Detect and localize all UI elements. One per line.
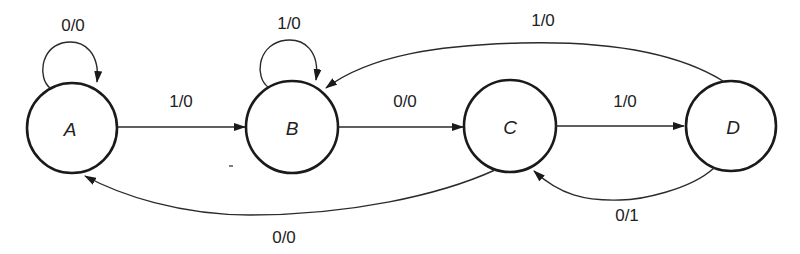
transition-c-d: 1/0	[556, 92, 684, 126]
transition-c-a: 0/0	[85, 170, 495, 247]
state-d-label: D	[726, 117, 740, 138]
state-b-label: B	[286, 118, 299, 139]
state-a: A	[27, 83, 117, 173]
state-c-label: C	[503, 117, 517, 138]
transition-d-c: 0/1	[534, 168, 714, 225]
transition-a-a-label: 0/0	[61, 16, 85, 35]
state-d: D	[686, 81, 776, 171]
transition-a-b-label: 1/0	[169, 92, 193, 111]
state-b: B	[246, 81, 338, 173]
transition-b-c-label: 0/0	[393, 92, 417, 111]
transition-c-d-label: 1/0	[613, 92, 637, 111]
transition-b-b: 1/0	[260, 14, 317, 87]
transition-b-b-label: 1/0	[277, 14, 301, 33]
state-c: C	[464, 80, 556, 172]
transition-d-c-label: 0/1	[615, 206, 639, 225]
state-diagram: A B C D 0/0 1/0 1/0 0/0 1/0 1/0	[0, 0, 800, 254]
transition-c-a-label: 0/0	[272, 228, 296, 247]
transition-a-b: 1/0	[118, 92, 245, 127]
transition-d-b: 1/0	[326, 11, 723, 88]
transition-b-c: 0/0	[338, 92, 463, 127]
transition-d-b-label: 1/0	[531, 11, 555, 30]
state-a-label: A	[63, 119, 77, 140]
transition-a-a: 0/0	[43, 16, 98, 88]
